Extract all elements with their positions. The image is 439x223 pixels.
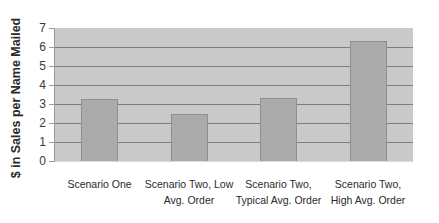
y-tick-mark — [49, 66, 55, 67]
bar — [260, 98, 297, 161]
y-axis-title: $ in Sales per Name Mailed — [2, 28, 30, 168]
y-tick-label: 1 — [36, 136, 46, 148]
y-tick-mark — [49, 142, 55, 143]
y-tick-mark — [49, 123, 55, 124]
y-tick-label: 2 — [36, 117, 46, 129]
y-tick-mark — [49, 161, 55, 162]
bar — [171, 114, 208, 162]
y-tick-label: 5 — [36, 60, 46, 72]
y-axis-title-text: $ in Sales per Name Mailed — [9, 18, 23, 179]
bar — [81, 99, 118, 161]
y-tick-mark — [49, 47, 55, 48]
y-tick-label: 0 — [36, 155, 46, 167]
x-tick-label: Scenario Two, Typical Avg. Order — [234, 176, 323, 208]
y-tick-label: 4 — [36, 79, 46, 91]
y-tick-label: 6 — [36, 41, 46, 53]
x-axis-line — [55, 161, 413, 162]
x-tick-label: Scenario One — [55, 176, 144, 192]
y-tick-label: 3 — [36, 98, 46, 110]
y-tick-label: 7 — [36, 22, 46, 34]
y-tick-mark — [49, 104, 55, 105]
y-tick-mark — [49, 28, 55, 29]
bar — [350, 41, 387, 161]
y-tick-mark — [49, 85, 55, 86]
x-tick-label: Scenario Two, Low Avg. Order — [145, 176, 234, 208]
x-tick-label: Scenario Two, High Avg. Order — [324, 176, 413, 208]
